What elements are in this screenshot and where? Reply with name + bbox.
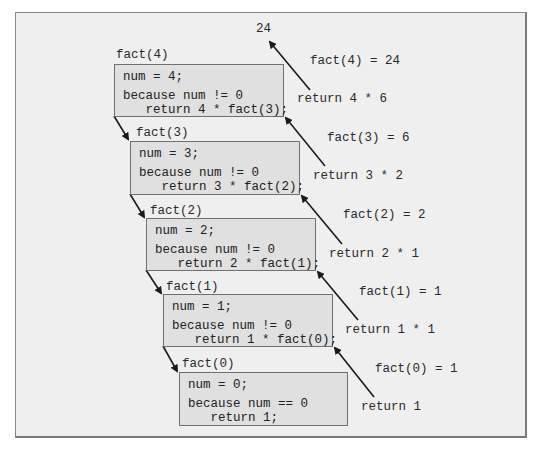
- frame-label: fact(2): [150, 204, 203, 218]
- call-frame-box: num = 2; because num != 0 return 2 * fac…: [146, 218, 316, 271]
- frame-label: fact(0): [182, 357, 235, 371]
- return-expression: return 3 * 2: [313, 169, 403, 183]
- condition-line: because num != 0: [172, 319, 292, 333]
- return-result: fact(1) = 1: [359, 285, 442, 299]
- condition-line: because num != 0: [139, 166, 259, 180]
- assign-line: num = 2;: [155, 224, 215, 238]
- final-result: 24: [256, 22, 271, 36]
- action-line: return 4 * fact(3);: [123, 103, 288, 117]
- assign-line: num = 3;: [139, 147, 199, 161]
- call-arrow-icon: [146, 270, 161, 293]
- condition-line: because num != 0: [155, 243, 275, 257]
- condition-line: because num != 0: [123, 89, 243, 103]
- call-arrow-icon: [114, 116, 128, 139]
- return-expression: return 1: [361, 400, 421, 414]
- frame-label: fact(3): [136, 126, 189, 140]
- call-arrow-icon: [130, 194, 144, 217]
- return-expression: return 1 * 1: [345, 323, 435, 337]
- call-frame-box: num = 1; because num != 0 return 1 * fac…: [163, 294, 333, 347]
- action-line: return 3 * fact(2);: [139, 180, 304, 194]
- return-expression: return 2 * 1: [329, 247, 419, 261]
- assign-line: num = 4;: [123, 70, 183, 84]
- call-frame-box: num = 0; because num == 0 return 1;: [179, 372, 348, 426]
- assign-line: num = 1;: [172, 300, 232, 314]
- return-result: fact(0) = 1: [375, 362, 458, 376]
- return-expression: return 4 * 6: [297, 92, 387, 106]
- return-result: fact(2) = 2: [343, 208, 426, 222]
- action-line: return 1 * fact(0);: [172, 333, 337, 347]
- return-result: fact(4) = 24: [310, 54, 400, 68]
- return-result: fact(3) = 6: [327, 131, 410, 145]
- condition-line: because num == 0: [188, 397, 308, 411]
- call-frame-box: num = 4; because num != 0 return 4 * fac…: [114, 64, 284, 117]
- call-arrow-icon: [163, 346, 177, 371]
- action-line: return 1;: [188, 411, 278, 425]
- frame-label: fact(4): [116, 48, 169, 62]
- assign-line: num = 0;: [188, 378, 248, 392]
- action-line: return 2 * fact(1);: [155, 257, 320, 271]
- call-frame-box: num = 3; because num != 0 return 3 * fac…: [130, 141, 300, 195]
- frame-label: fact(1): [166, 280, 219, 294]
